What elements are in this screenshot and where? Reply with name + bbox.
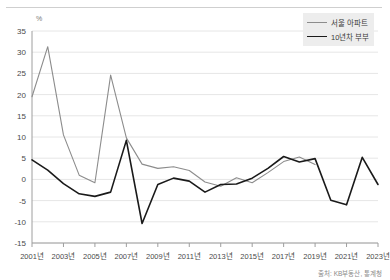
x-axis-tick-label: 2003년 bbox=[52, 250, 76, 261]
x-axis-tick-label: 2001년 bbox=[20, 250, 44, 261]
x-axis-tick-label: 2015년 bbox=[240, 250, 264, 261]
x-axis-tick-marks bbox=[32, 243, 378, 247]
y-axis-tick-label: 0 bbox=[2, 175, 26, 184]
y-axis-tick-label: 15 bbox=[2, 111, 26, 120]
legend-label-seoul-apartment: 서울 아파트 bbox=[331, 17, 368, 28]
source-note: 출처: KB부동산, 통계청 bbox=[318, 268, 382, 278]
legend-label-10year-couple: 10년차 부부 bbox=[331, 31, 369, 42]
y-axis-tick-label: -15 bbox=[2, 239, 26, 248]
legend-swatch-10year-couple bbox=[307, 36, 327, 37]
x-axis-tick-label: 2019년 bbox=[303, 250, 327, 261]
y-axis-tick-label: 10 bbox=[2, 133, 26, 142]
legend-swatch-seoul-apartment bbox=[307, 22, 327, 23]
x-axis-tick-label: 2023년 bbox=[366, 250, 390, 261]
gridlines bbox=[32, 31, 378, 243]
y-axis-tick-label: 20 bbox=[2, 90, 26, 99]
x-axis-tick-label: 2007년 bbox=[115, 250, 139, 261]
x-axis-tick-label: 2009년 bbox=[146, 250, 170, 261]
legend-item-10year-couple[interactable]: 10년차 부부 bbox=[307, 31, 369, 42]
x-axis-tick-label: 2013년 bbox=[209, 250, 233, 261]
y-axis-tick-label: 5 bbox=[2, 154, 26, 163]
x-axis-tick-label: 2017년 bbox=[272, 250, 296, 261]
y-axis-tick-label: 35 bbox=[2, 27, 26, 36]
chart-legend: 서울 아파트 10년차 부부 bbox=[303, 13, 374, 46]
y-axis-tick-label: 30 bbox=[2, 48, 26, 57]
x-axis-tick-label: 2021년 bbox=[335, 250, 359, 261]
y-axis-tick-label: -10 bbox=[2, 217, 26, 226]
legend-item-seoul-apartment[interactable]: 서울 아파트 bbox=[307, 17, 369, 28]
y-axis-tick-label: 25 bbox=[2, 69, 26, 78]
x-axis-tick-label: 2011년 bbox=[178, 250, 201, 261]
y-axis-tick-label: -5 bbox=[2, 196, 26, 205]
x-axis-tick-label: 2005년 bbox=[83, 250, 107, 261]
